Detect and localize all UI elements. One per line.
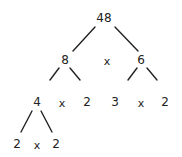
multiply-sign: x (104, 56, 111, 67)
tree-edge-6-to-3 (128, 68, 137, 80)
factor-node: 6 (137, 54, 145, 66)
factor-node: 3 (111, 96, 119, 108)
tree-edge-48-to-6 (115, 27, 138, 51)
multiply-sign: x (138, 98, 145, 109)
factor-node: 2 (161, 96, 169, 108)
tree-edge-4-to-2 (41, 111, 52, 132)
tree-edge-8-to-4 (50, 68, 59, 80)
factor-node: 2 (13, 138, 21, 150)
tree-edge-8-to-2 (70, 68, 80, 80)
factor-node: 48 (96, 12, 111, 24)
factor-node: 2 (83, 96, 91, 108)
multiply-sign: x (59, 98, 66, 109)
factor-node: 8 (61, 54, 69, 66)
tree-edge-6-to-2 (147, 68, 157, 80)
factor-tree-edges (0, 0, 182, 157)
factor-node: 2 (52, 138, 60, 150)
tree-edge-4-to-2 (21, 111, 32, 132)
multiply-sign: x (34, 140, 41, 151)
factor-node: 4 (33, 96, 41, 108)
tree-edge-48-to-8 (73, 27, 95, 51)
